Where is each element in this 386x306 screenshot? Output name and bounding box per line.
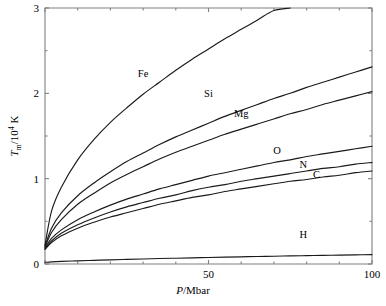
curve-group	[45, 8, 372, 262]
curve-n	[45, 162, 372, 248]
y-axis-title: Tm/104 K	[7, 115, 23, 156]
curve-mg	[45, 92, 372, 247]
x-axis-title: P/Mbar	[175, 284, 210, 296]
curve-label-n: N	[300, 159, 308, 170]
curve-labels: FeSiMgONCH	[138, 68, 320, 240]
chart-root: 501000123 FeSiMgONCH P/Mbar Tm/104 K	[0, 0, 386, 306]
curve-label-o: O	[273, 145, 281, 156]
y-tick-label: 1	[34, 173, 40, 185]
y-tick-label: 2	[34, 87, 40, 99]
x-tick-label: 100	[364, 268, 381, 280]
plot-border	[45, 8, 372, 264]
curve-label-fe: Fe	[138, 68, 149, 79]
curve-label-mg: Mg	[234, 108, 249, 119]
curve-o	[45, 146, 372, 248]
curve-label-c: C	[313, 169, 320, 180]
curve-label-si: Si	[204, 88, 213, 99]
melting-curve-chart: 501000123 FeSiMgONCH P/Mbar Tm/104 K	[0, 0, 386, 306]
plot-frame	[45, 8, 372, 264]
x-tick-label: 50	[203, 268, 215, 280]
y-tick-label: 0	[34, 258, 40, 270]
major-ticks	[45, 8, 372, 264]
minor-ticks	[45, 8, 372, 264]
y-tick-label: 3	[34, 2, 40, 14]
curve-fe	[45, 8, 290, 245]
curve-label-h: H	[300, 229, 308, 240]
